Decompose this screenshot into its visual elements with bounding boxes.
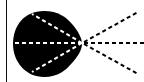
outer-dashed-rays [84, 12, 144, 74]
outer-ray-lower [84, 44, 138, 74]
diagram-canvas [0, 0, 144, 82]
outer-ray-upper [84, 12, 138, 42]
